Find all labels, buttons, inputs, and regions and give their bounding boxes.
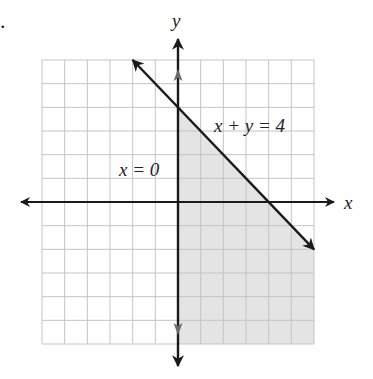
- problem-marker: .: [0, 8, 6, 33]
- graph-figure: . x y x + y = 4 x = 0: [0, 0, 373, 379]
- line-label-x-eq-0: x = 0: [118, 159, 160, 180]
- y-axis-label: y: [170, 10, 181, 31]
- x-axis-label: x: [343, 192, 353, 213]
- line-label-x-plus-y-eq-4: x + y = 4: [213, 115, 286, 136]
